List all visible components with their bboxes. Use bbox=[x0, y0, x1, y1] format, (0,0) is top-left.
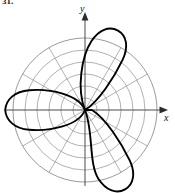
cartesian-axes bbox=[6, 17, 162, 186]
polar-rose-figure bbox=[0, 0, 175, 193]
y-axis-label: y bbox=[80, 4, 84, 14]
x-axis-label: x bbox=[164, 113, 168, 123]
